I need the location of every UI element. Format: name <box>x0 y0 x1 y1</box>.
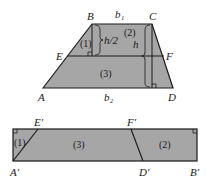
rect-region-2-label: (2) <box>159 139 171 151</box>
vertex-label-d-prime: D′ <box>138 166 150 178</box>
region-1-label: (1) <box>80 38 92 50</box>
bottom-base-label: b₂ <box>104 91 114 103</box>
vertex-label-a: A <box>37 91 45 103</box>
height-label: h <box>133 38 139 50</box>
rect-region-1-label: (1) <box>14 137 26 149</box>
vertex-label-b-prime: B′ <box>190 166 200 178</box>
vertex-label-a-prime: A′ <box>9 166 20 178</box>
vertex-label-e: E <box>55 50 63 62</box>
region-2-label: (2) <box>124 27 136 39</box>
rect-region-3-label: (3) <box>73 139 85 151</box>
trapezoid-figure: B C E F A D b₁ b₂ h/2 h (1) (2) (3) <box>37 8 176 103</box>
rectangle-figure: E′ F′ A′ D′ B′ (1) (3) (2) <box>9 116 200 178</box>
region-3-label: (3) <box>100 68 112 80</box>
vertex-label-d: D <box>167 91 176 103</box>
half-height-label: h/2 <box>104 34 119 46</box>
vertex-label-f-prime: F′ <box>126 116 137 128</box>
vertex-label-e-prime: E′ <box>33 116 44 128</box>
top-base-label: b₁ <box>115 8 125 20</box>
vertex-label-c: C <box>149 10 157 22</box>
trapezoid-area-diagram: B C E F A D b₁ b₂ h/2 h (1) (2) (3) E′ F… <box>0 0 206 196</box>
vertex-label-b: B <box>87 10 94 22</box>
vertex-label-f: F <box>165 50 173 62</box>
